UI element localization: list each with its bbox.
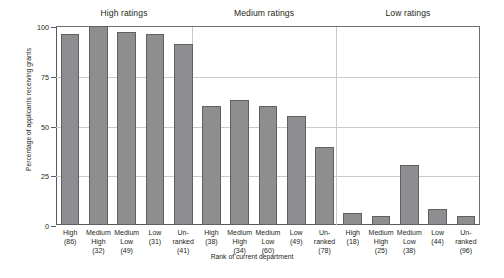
bar: [146, 34, 165, 225]
bar: [202, 106, 221, 225]
bar: [117, 32, 136, 225]
group-header-low: Low ratings: [336, 8, 480, 18]
group-header-medium: Medium ratings: [192, 8, 336, 18]
y-tick-label-100: 100: [37, 23, 49, 32]
bar: [400, 165, 419, 225]
bar: [230, 100, 249, 225]
x-axis-label: Rank of current department: [0, 253, 504, 260]
group-divider-2: [336, 27, 337, 225]
bar: [372, 216, 391, 225]
y-tick-0: [51, 226, 56, 227]
y-tick-50: [51, 127, 56, 128]
y-axis-label: Percentage of applicants receiving grant…: [25, 20, 32, 200]
y-tick-label-0: 0: [45, 222, 49, 231]
bar: [315, 147, 334, 225]
bar: [174, 44, 193, 225]
y-tick-75: [51, 77, 56, 78]
plot-area: 0255075100: [56, 26, 480, 225]
y-tick-label-25: 25: [41, 172, 49, 181]
y-tick-25: [51, 176, 56, 177]
bar: [287, 116, 306, 225]
y-tick-100: [51, 27, 56, 28]
x-tick-label: Un-ranked(96): [449, 228, 483, 256]
group-header-high: High ratings: [56, 8, 192, 18]
y-tick-label-50: 50: [41, 122, 49, 131]
group-header-row: High ratings Medium ratings Low ratings: [56, 8, 480, 24]
bar: [428, 209, 447, 225]
x-tick-label-line: Un-: [449, 228, 483, 237]
bar: [457, 216, 476, 225]
x-tick-label-line: ranked: [449, 237, 483, 246]
y-tick-label-75: 75: [41, 72, 49, 81]
bar: [61, 34, 80, 225]
bar: [259, 106, 278, 225]
bar: [343, 213, 362, 225]
bar: [89, 26, 108, 225]
bar-chart-figure: High ratings Medium ratings Low ratings …: [0, 0, 504, 278]
